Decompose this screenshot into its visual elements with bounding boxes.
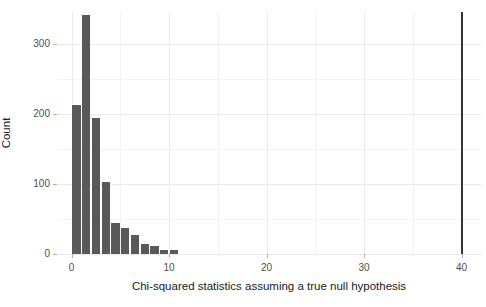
histogram-bar: [92, 118, 100, 254]
histogram-bar: [111, 223, 119, 254]
y-tick-label: 100: [8, 178, 50, 189]
histogram-bar: [121, 228, 129, 254]
x-tick-mark: [72, 254, 73, 258]
y-axis-title: Count: [0, 118, 12, 149]
y-tick-mark: [53, 114, 57, 115]
y-tick-mark: [53, 44, 57, 45]
gridline-x-major: [267, 12, 268, 254]
plot-panel: [57, 12, 481, 254]
y-tick-label: 300: [8, 38, 50, 49]
gridline-y-major: [57, 254, 481, 255]
x-tick-label: 30: [339, 262, 389, 273]
gridline-x-major: [364, 12, 365, 254]
x-tick-label: 10: [144, 262, 194, 273]
histogram-bar: [160, 250, 168, 254]
x-tick-mark: [169, 254, 170, 258]
gridline-x-minor: [315, 12, 316, 254]
histogram-bar: [150, 246, 158, 254]
x-tick-label: 20: [242, 262, 292, 273]
histogram-bar: [141, 244, 149, 254]
chart-figure: Count Chi-squared statistics assuming a …: [0, 0, 486, 307]
histogram-bar: [170, 250, 178, 254]
y-tick-label: 0: [8, 248, 50, 259]
gridline-x-major: [169, 12, 170, 254]
x-tick-mark: [267, 254, 268, 258]
histogram-bar: [72, 105, 80, 254]
x-tick-label: 40: [437, 262, 486, 273]
histogram-bar: [82, 15, 90, 254]
gridline-y-major: [57, 114, 481, 115]
x-tick-mark: [462, 254, 463, 258]
gridline-x-minor: [218, 12, 219, 254]
gridline-y-major: [57, 184, 481, 185]
gridline-x-minor: [120, 12, 121, 254]
observed-statistic-line: [461, 12, 463, 254]
histogram-bar: [102, 182, 110, 254]
x-tick-label: 0: [47, 262, 97, 273]
y-tick-label: 200: [8, 108, 50, 119]
x-axis-title: Chi-squared statistics assuming a true n…: [57, 280, 481, 292]
histogram-bar: [131, 235, 139, 254]
y-tick-mark: [53, 184, 57, 185]
y-tick-mark: [53, 254, 57, 255]
gridline-y-major: [57, 44, 481, 45]
x-tick-mark: [364, 254, 365, 258]
gridline-x-minor: [413, 12, 414, 254]
